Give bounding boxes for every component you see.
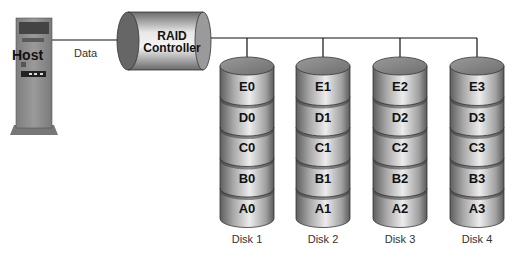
disk-name-label: Disk 3: [370, 233, 430, 245]
host-computer-icon: [10, 18, 58, 135]
stripe-block-label: A1: [315, 201, 332, 216]
stripe-block-label: E1: [315, 79, 331, 94]
disk-top: [296, 57, 350, 75]
disk-3: E2D2C2B2A2: [373, 57, 427, 228]
stripe-block-label: A3: [469, 201, 486, 216]
stripe-block-label: E0: [239, 79, 255, 94]
stripe-block-label: A2: [392, 201, 409, 216]
stripe-block-label: B0: [239, 171, 256, 186]
stripe-block-label: D1: [315, 110, 332, 125]
stripe-block-label: C3: [469, 140, 486, 155]
disk-top: [450, 57, 504, 75]
stripe-block-label: B2: [392, 171, 409, 186]
stripe-block-label: D3: [469, 110, 486, 125]
disk-array: E0D0C0B0A0E1D1C1B1A1E2D2C2B2A2E3D3C3B3A3: [220, 57, 504, 228]
disk-name-label: Disk 4: [447, 233, 507, 245]
stripe-block-label: B3: [469, 171, 486, 186]
stripe-block-label: A0: [239, 201, 256, 216]
disk-2: E1D1C1B1A1: [296, 57, 350, 228]
disk-top: [373, 57, 427, 75]
disk-name-label: Disk 2: [293, 233, 353, 245]
disk-4: E3D3C3B3A3: [450, 57, 504, 228]
host-label: Host: [12, 47, 43, 63]
stripe-block-label: E2: [392, 79, 408, 94]
disk-1: E0D0C0B0A0: [220, 57, 274, 228]
stripe-block-label: C2: [392, 140, 409, 155]
data-link-label: Data: [74, 47, 97, 59]
stripe-block-label: C0: [239, 140, 256, 155]
stripe-block-label: C1: [315, 140, 332, 155]
stripe-block-label: D2: [392, 110, 409, 125]
stripe-block-label: D0: [239, 110, 256, 125]
raid-diagram: E0D0C0B0A0E1D1C1B1A1E2D2C2B2A2E3D3C3B3A3: [0, 0, 514, 258]
disk-top: [220, 57, 274, 75]
controller-label-line2: Controller: [140, 42, 204, 54]
controller-label: RAID Controller: [140, 30, 204, 54]
stripe-block-label: B1: [315, 171, 332, 186]
stripe-block-label: E3: [469, 79, 485, 94]
disk-name-label: Disk 1: [217, 233, 277, 245]
